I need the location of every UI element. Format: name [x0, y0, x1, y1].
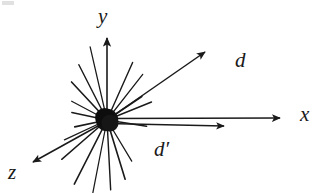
axis-label-z: z — [8, 162, 16, 183]
axis-label-x: x — [300, 104, 309, 125]
diagram-canvas — [0, 0, 328, 193]
vector-label-d-prime: d′ — [154, 139, 169, 160]
axis-line-x — [107, 118, 280, 119]
vector-label-d: d — [235, 50, 246, 71]
axis-label-y: y — [98, 6, 107, 27]
vector-diagram-figure: y x z d d′ — [0, 0, 328, 193]
vector-line-d-prime — [107, 124, 224, 127]
